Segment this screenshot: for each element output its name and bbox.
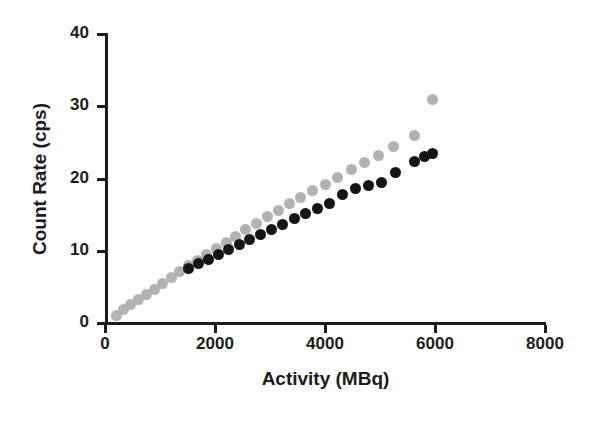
x-tick-6000 <box>434 325 437 333</box>
y-tick-10 <box>97 250 105 253</box>
plot-area <box>105 34 545 323</box>
y-tick-20 <box>97 178 105 181</box>
data-point <box>262 211 273 222</box>
x-tick-8000 <box>544 325 547 333</box>
data-point <box>273 205 284 216</box>
data-point <box>277 219 288 230</box>
data-point <box>390 167 401 178</box>
data-point <box>427 148 438 159</box>
x-tick-4000 <box>324 325 327 333</box>
data-point <box>320 179 331 190</box>
data-point <box>332 172 343 183</box>
data-point <box>337 189 348 200</box>
y-tick-label-40: 40 <box>29 23 89 43</box>
data-point <box>350 183 361 194</box>
x-tick-0 <box>104 325 107 333</box>
x-tick-2000 <box>214 325 217 333</box>
data-point <box>427 94 438 105</box>
x-tick-label-2000: 2000 <box>175 334 255 354</box>
y-tick-label-0: 0 <box>29 312 89 332</box>
x-tick-label-8000: 8000 <box>505 334 585 354</box>
x-axis-title: Activity (MBq) <box>105 368 546 390</box>
data-point <box>244 234 255 245</box>
data-point <box>289 213 300 224</box>
x-tick-label-6000: 6000 <box>395 334 475 354</box>
data-point <box>376 177 387 188</box>
data-point <box>266 224 277 235</box>
y-axis-title: Count Rate (cps) <box>29 59 51 299</box>
y-tick-30 <box>97 105 105 108</box>
data-point <box>213 249 224 260</box>
data-point <box>251 218 262 229</box>
x-tick-label-4000: 4000 <box>285 334 365 354</box>
data-point <box>312 203 323 214</box>
x-tick-label-0: 0 <box>65 334 145 354</box>
data-point <box>388 141 399 152</box>
data-point <box>363 180 374 191</box>
data-point <box>409 156 420 167</box>
scatter-chart-figure: 01020304002000400060008000 Count Rate (c… <box>0 0 594 426</box>
data-point <box>300 208 311 219</box>
data-point <box>324 198 335 209</box>
data-point <box>234 239 245 250</box>
data-point <box>409 130 420 141</box>
data-point <box>373 150 384 161</box>
data-point <box>284 198 295 209</box>
y-tick-40 <box>97 33 105 36</box>
data-point <box>295 192 306 203</box>
data-point <box>346 164 357 175</box>
data-point <box>255 229 266 240</box>
data-point <box>223 244 234 255</box>
data-point <box>359 157 370 168</box>
data-point <box>307 185 318 196</box>
